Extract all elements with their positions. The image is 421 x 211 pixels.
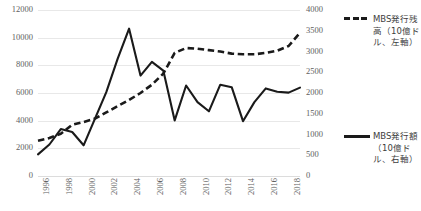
y-axis-right-tick-label: 3000 [306, 47, 336, 56]
plot-area [38, 10, 300, 176]
y-axis-left-tick-label: 4000 [0, 116, 33, 125]
x-axis-tick-label: 2004 [132, 178, 142, 195]
y-axis-left-tick-label: 0 [0, 171, 33, 180]
x-axis-tick-label: 2006 [155, 178, 165, 195]
x-axis-tick-label: 2002 [109, 178, 119, 195]
y-axis-left-tick-label: 6000 [0, 88, 33, 97]
y-axis-right-tick-label: 1500 [306, 109, 336, 118]
y-axis-left-tick-label: 10000 [0, 33, 33, 42]
legend-entry-mbs-outstanding: MBS発行残高（10億ドル、左軸） [344, 14, 421, 49]
chart-legend: MBS発行残高（10億ドル、左軸） MBS発行額（10億ドル、右軸） [344, 14, 421, 199]
series-line-solid [38, 29, 300, 155]
x-axis-tick-label: 2014 [246, 178, 256, 195]
legend-key-solid-icon [344, 134, 370, 138]
series-line-dashed [38, 33, 300, 141]
y-axis-right-tick-label: 3500 [306, 26, 336, 35]
x-axis-tick-label: 2018 [292, 178, 302, 195]
series-lines [38, 10, 300, 176]
y-axis-right-tick-label: 2500 [306, 67, 336, 76]
legend-label-mbs-outstanding: MBS発行残高（10億ドル、左軸） [373, 14, 421, 49]
x-axis-tick-label: 2010 [201, 178, 211, 195]
y-axis-right-tick-label: 500 [306, 150, 336, 159]
legend-label-mbs-issuance: MBS発行額（10億ドル、右軸） [373, 131, 421, 166]
gridline [38, 176, 300, 177]
y-axis-right-tick-label: 1000 [306, 130, 336, 139]
y-axis-left-tick-label: 12000 [0, 5, 33, 14]
legend-entry-mbs-issuance: MBS発行額（10億ドル、右軸） [344, 131, 421, 166]
y-axis-right-tick-label: 2000 [306, 88, 336, 97]
x-axis-tick-label: 2000 [87, 178, 97, 195]
y-axis-right-tick-label: 0 [306, 171, 336, 180]
chart-container: 020004000600080001000012000 050010001500… [0, 0, 421, 211]
y-axis-left-tick-label: 8000 [0, 60, 33, 69]
legend-key-dashed-icon [344, 17, 370, 21]
x-axis-tick-label: 2016 [269, 178, 279, 195]
x-axis-tick-label: 2012 [223, 178, 233, 195]
x-axis-tick-label: 1996 [41, 178, 51, 195]
y-axis-left-tick-label: 2000 [0, 143, 33, 152]
x-axis-tick-label: 1998 [64, 178, 74, 195]
y-axis-right-tick-label: 4000 [306, 5, 336, 14]
x-axis-labels: 1996199820002002200420062008201020122014… [38, 178, 300, 211]
x-axis-tick-label: 2008 [178, 178, 188, 195]
